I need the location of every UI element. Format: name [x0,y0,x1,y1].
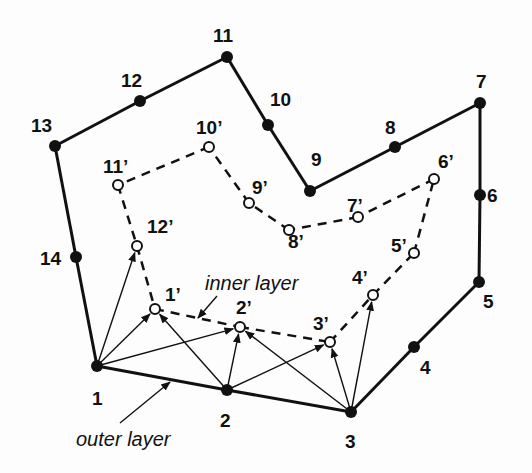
outer-node-7 [474,97,486,109]
annotation-pointer [120,382,170,423]
inner-edge [249,203,289,230]
inner-node-5p [409,248,419,258]
inner-node-6p [429,174,439,184]
connection-arrow [332,349,351,412]
outer-edge [97,366,227,390]
inner-edge [358,179,434,217]
node-label: 5’ [391,235,407,256]
inner-node-10p [204,142,214,152]
outer-node-10 [262,119,274,131]
annotation-pointer [198,296,217,318]
outer-edge [55,101,140,146]
inner-edge [209,147,249,203]
mesh-diagram: inner layerouter layer 12345678910111213… [0,0,532,473]
node-label: 6’ [438,151,454,172]
outer-node-14 [70,251,82,263]
node-label: 7 [476,71,487,92]
outer-edge [351,347,414,412]
inner-node-4p [368,290,378,300]
node-label: 1’ [165,284,181,305]
connection-arrow [227,345,324,390]
outer-edge [479,195,480,282]
inner-node-11p [113,180,123,190]
node-label: 12 [121,70,142,91]
node-label: 1 [92,388,103,409]
outer-edge [395,103,480,147]
outer-edge [227,390,351,412]
outer-node-3 [345,406,357,418]
node-label: 12’ [147,216,173,237]
inner-edge [289,217,358,230]
node-label: 8 [385,117,396,138]
outer-node-13 [49,140,61,152]
node-labels: 12345678910111213141’2’3’4’5’6’7’8’9’10’… [31,25,498,452]
outer-edge [227,57,268,125]
node-label: 10 [270,89,291,110]
node-label: 5 [483,291,494,312]
outer-layer-edges [55,57,480,412]
node-label: 9’ [252,177,268,198]
outer-edge [310,147,395,191]
connection-arrow [227,334,239,390]
node-label: 14 [40,248,62,269]
inner-edge [137,246,155,309]
connection-arrow [97,329,233,366]
node-label: 11’ [103,156,128,177]
inner-node-9p [244,198,254,208]
connection-arrow [97,253,135,366]
outer-node-5 [473,276,485,288]
annotations: inner layerouter layer [76,272,300,450]
inner-node-3p [325,337,335,347]
node-label: 8’ [288,231,304,252]
diagram-svg: inner layerouter layer 12345678910111213… [0,0,532,473]
inner-edge [373,253,414,295]
outer-edge [76,257,97,366]
inner-edge [118,147,209,185]
node-label: 11 [213,25,234,46]
inner-edge [414,179,434,253]
inner-node-12p [132,241,142,251]
outer-node-9 [304,185,316,197]
node-label: 7’ [347,195,363,216]
outer-node-1 [91,360,103,372]
outer-node-4 [408,341,420,353]
outer-edge [414,282,479,347]
annotation-label: inner layer [205,272,300,294]
node-label: 6 [487,185,498,206]
outer-node-2 [221,384,233,396]
outer-node-12 [134,95,146,107]
inner-node-2p [235,322,245,332]
inner-edge [118,185,137,246]
outer-edge [55,146,76,257]
inner-node-1p [150,304,160,314]
outer-node-8 [389,141,401,153]
node-label: 2 [220,410,231,431]
annotation-label: outer layer [76,428,172,450]
node-label: 4 [420,357,431,378]
node-label: 3’ [313,313,329,334]
node-label: 9 [311,149,322,170]
node-label: 10’ [196,117,222,138]
node-label: 13 [31,115,52,136]
outer-node-6 [474,189,486,201]
outer-node-11 [221,51,233,63]
outer-edge [140,57,227,101]
node-label: 2’ [236,297,252,318]
outer-edge [268,125,310,191]
inner-edge [330,295,373,342]
inner-layer-edges [118,147,434,342]
node-label: 3 [345,431,356,452]
node-label: 4’ [352,267,368,288]
